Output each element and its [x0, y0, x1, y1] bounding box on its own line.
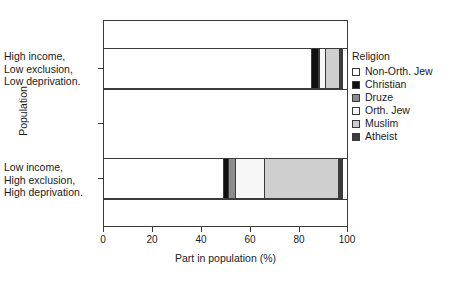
x-axis-title: Part in population (%) [103, 252, 348, 264]
legend-swatch-icon [352, 68, 360, 76]
x-tick-20 [152, 227, 153, 232]
bar-segment-atheist[interactable] [339, 48, 343, 89]
legend-item-christian[interactable]: Christian [352, 78, 433, 91]
bar-segment-non-orth-jew[interactable] [103, 48, 312, 89]
x-tick-0 [103, 227, 104, 232]
bar-segment-orth-jew[interactable] [235, 158, 265, 199]
bar-segment-muslim[interactable] [325, 48, 339, 89]
legend-title: Religion [352, 50, 433, 62]
x-tick-40 [201, 227, 202, 232]
bar-segment-non-orth-jew[interactable] [103, 158, 224, 199]
legend-swatch-icon [352, 120, 360, 128]
legend-item-label: Christian [365, 78, 406, 91]
x-tick-60 [250, 227, 251, 232]
y-tick-middle [98, 123, 103, 124]
bar-high-income[interactable] [103, 48, 343, 89]
legend-item-muslim[interactable]: Muslim [352, 117, 433, 130]
category-label-low-income: Low income,High exclusion,High deprivati… [4, 161, 96, 199]
category-label-line: High deprivation. [4, 186, 96, 199]
legend-item-label: Atheist [365, 130, 397, 143]
panel-separator-upper-mid [103, 89, 348, 90]
category-label-line: High exclusion, [4, 174, 96, 187]
legend-item-non-orth-jew[interactable]: Non-Orth. Jew [352, 65, 433, 78]
legend-swatch-icon [352, 107, 360, 115]
x-tick-80 [299, 227, 300, 232]
bar-low-income[interactable] [103, 158, 343, 199]
x-tick-label-100: 100 [339, 234, 356, 245]
bar-segment-muslim[interactable] [264, 158, 339, 199]
legend-item-label: Orth. Jew [365, 104, 410, 117]
x-tick-label-60: 60 [244, 234, 255, 245]
legend-swatch-icon [352, 81, 360, 89]
category-label-line: Low income, [4, 161, 96, 174]
legend-item-orth-jew[interactable]: Orth. Jew [352, 104, 433, 117]
panel-separator-bottom [103, 199, 348, 200]
legend-swatch-icon [352, 94, 360, 102]
legend-item-atheist[interactable]: Atheist [352, 130, 433, 143]
bar-segment-atheist[interactable] [338, 158, 343, 199]
legend-item-label: Druze [365, 91, 393, 104]
category-label-line: High income, [4, 50, 96, 63]
x-tick-label-20: 20 [146, 234, 157, 245]
x-tick-label-0: 0 [100, 234, 106, 245]
legend-swatch-icon [352, 133, 360, 141]
x-tick-100 [347, 227, 348, 232]
legend: Religion Non-Orth. JewChristianDruzeOrth… [352, 50, 433, 143]
x-tick-label-80: 80 [293, 234, 304, 245]
y-axis-title: Population [17, 66, 29, 156]
legend-item-druze[interactable]: Druze [352, 91, 433, 104]
legend-item-label: Non-Orth. Jew [365, 65, 433, 78]
legend-item-label: Muslim [365, 117, 398, 130]
x-tick-label-40: 40 [195, 234, 206, 245]
stacked-bar-chart: High income,Low exclusion,Low deprivatio… [0, 0, 457, 291]
